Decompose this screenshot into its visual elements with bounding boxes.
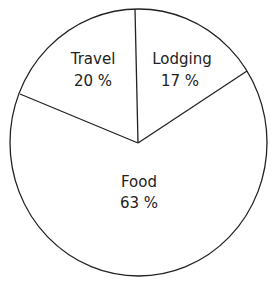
slice-label-lodging: Lodging: [152, 50, 212, 68]
pie-chart: Travel 20 % Lodging 17 % Food 63 %: [0, 0, 274, 283]
slice-label-food: Food: [121, 173, 157, 191]
slice-label-travel: Travel: [70, 50, 116, 68]
slice-value-travel: 20 %: [74, 72, 112, 90]
slice-value-food: 63 %: [120, 194, 158, 212]
slice-value-lodging: 17 %: [161, 72, 199, 90]
